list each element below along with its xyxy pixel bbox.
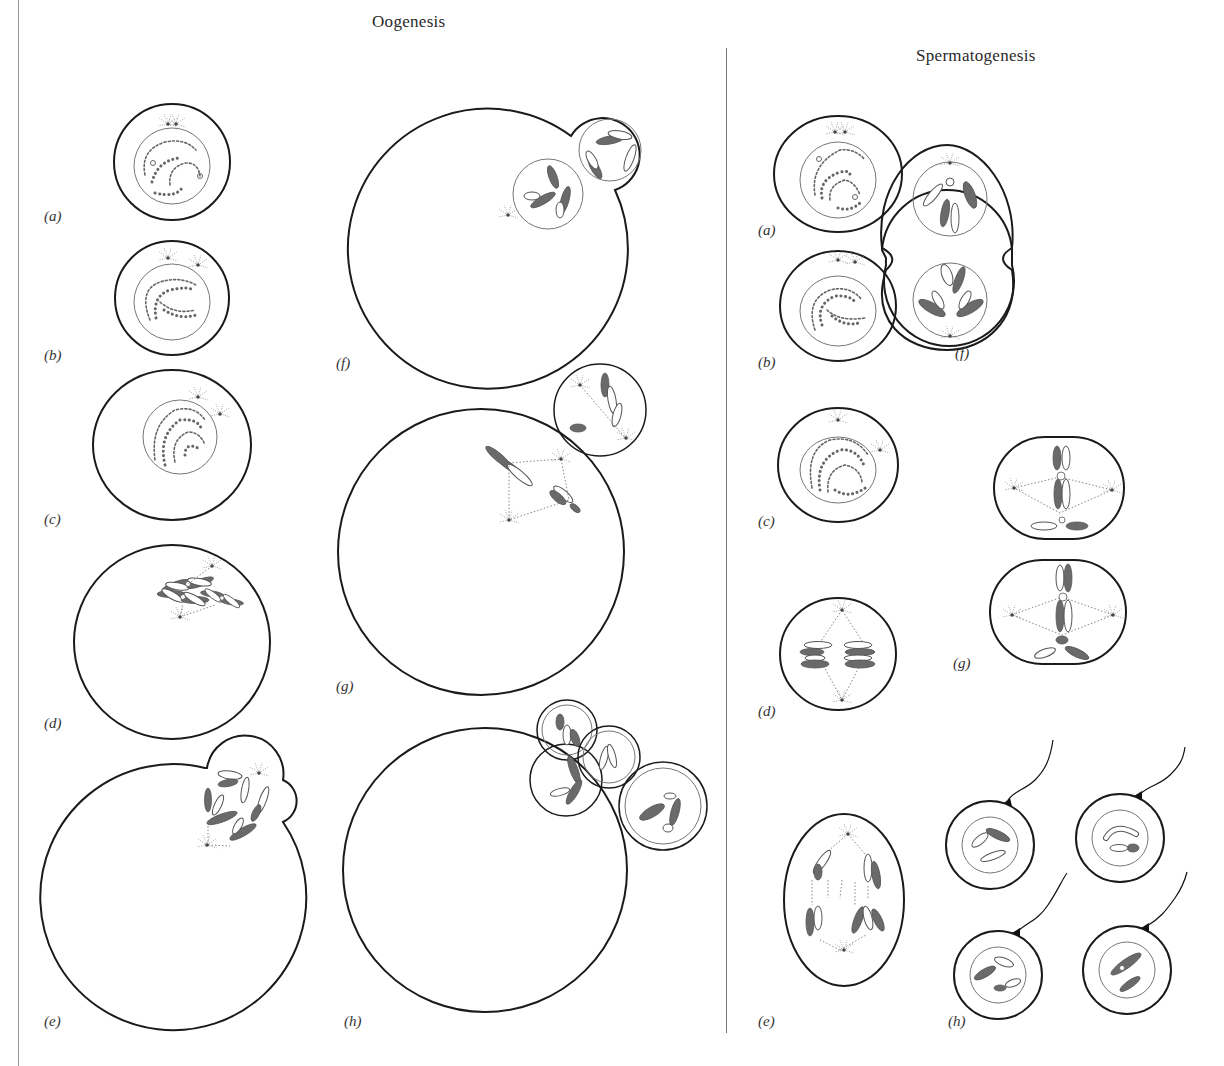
spermatogenesis-panel-b (780, 250, 896, 361)
oogenesis-panel-g (338, 364, 646, 695)
oogenesis-panel-b (115, 241, 229, 355)
oogenesis-label-a: (a) (44, 208, 62, 225)
spermatogenesis-label-g: (g) (953, 655, 971, 672)
spermatogenesis-panel-c (778, 408, 898, 522)
oogenesis-label-d: (d) (44, 715, 62, 732)
spermatogenesis-panel-g (990, 437, 1126, 664)
spermatogenesis-label-a: (a) (758, 222, 776, 239)
spermatogenesis-label-h: (h) (948, 1013, 966, 1030)
spermatogenesis-label-b: (b) (758, 354, 776, 371)
spermatogenesis-panel-e (784, 814, 904, 986)
oogenesis-panel-f (348, 109, 641, 389)
oogenesis-panel-d (74, 545, 270, 739)
oogenesis-panel-h (343, 700, 707, 1012)
spermatogenesis-label-f: (f) (955, 345, 969, 362)
oogenesis-label-g: (g) (336, 678, 354, 695)
spermatogenesis-label-c: (c) (758, 513, 775, 530)
spermatogenesis-panel-h (946, 740, 1187, 1019)
oogenesis-panel-c (93, 370, 251, 520)
oogenesis-label-b: (b) (44, 347, 62, 364)
oogenesis-label-c: (c) (44, 511, 61, 528)
meiosis-diagram (0, 0, 1224, 1066)
oogenesis-label-f: (f) (336, 355, 350, 372)
spermatogenesis-panel-d (780, 598, 896, 710)
spermatogenesis-label-d: (d) (758, 703, 776, 720)
oogenesis-panel-e (40, 736, 306, 1031)
oogenesis-label-e: (e) (44, 1013, 61, 1030)
oogenesis-label-h: (h) (344, 1013, 362, 1030)
spermatogenesis-label-e: (e) (758, 1013, 775, 1030)
oogenesis-panel-a (114, 104, 230, 220)
